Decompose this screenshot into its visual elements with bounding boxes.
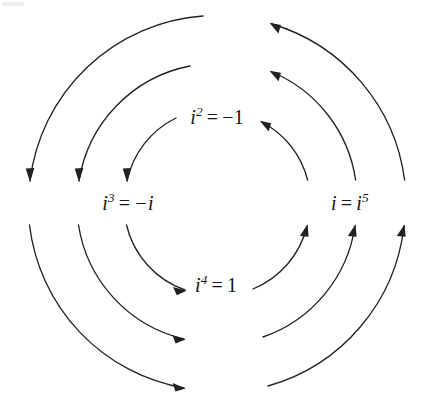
inner-left-bottom-arc	[127, 225, 186, 290]
middle-left-bottom-arrowhead	[172, 335, 185, 343]
label-i-first-result: i5	[356, 192, 369, 214]
middle-left-descending-arrowhead	[75, 168, 84, 182]
middle-right-ascending-arc	[263, 226, 355, 337]
middle-left-descending-arc	[79, 66, 190, 181]
inner-left-descending-arc	[127, 118, 176, 181]
outer-left-bottom-arc	[30, 225, 185, 388]
inner-right-ascending-arc	[253, 226, 307, 289]
label-i-fourth: i4=1	[190, 273, 242, 297]
label-i-first-result-exponent: 5	[362, 190, 369, 205]
label-i-first-base: i	[331, 192, 337, 214]
arc-group-left-descending	[26, 16, 203, 182]
label-i-squared: i2=−1	[185, 105, 249, 129]
label-i-squared-operator: =	[203, 106, 222, 128]
label-i-cubed-operator: =	[115, 192, 134, 214]
label-i-squared-result: −1	[222, 106, 244, 128]
label-i-first-operator: =	[337, 192, 356, 214]
arc-group-right-ascending	[253, 224, 406, 386]
outer-right-top-arrowhead	[269, 23, 281, 34]
outer-right-ascending-arrowhead	[397, 224, 406, 237]
outer-left-descending-arc	[30, 16, 203, 181]
inner-right-ascending-arrowhead	[300, 224, 309, 237]
label-i-fourth-operator: =	[207, 274, 226, 296]
outer-right-ascending-arc	[268, 226, 404, 386]
label-i-cubed-result: −i	[134, 192, 153, 214]
label-i-squared-exponent: 2	[196, 104, 203, 119]
arc-group-left-bottom	[30, 225, 187, 392]
label-i-cubed: i3=−i	[97, 191, 159, 215]
outer-right-top-arc	[272, 24, 405, 180]
label-i-fourth-result: 1	[227, 274, 237, 296]
outer-left-descending-arrowhead	[26, 168, 35, 182]
label-i-fourth-exponent: 4	[201, 272, 208, 287]
middle-right-top-arrowhead	[269, 71, 281, 81]
label-i-cubed-exponent: 3	[108, 190, 115, 205]
middle-right-ascending-arrowhead	[348, 224, 357, 237]
arc-group-right-top	[260, 23, 405, 180]
label-i-first: i=i5	[326, 191, 374, 215]
powers-of-i-diagram: i2=−1 i3=−i i=i5 i4=1 Powers of i cycle …	[0, 0, 422, 399]
inner-right-top-arrowhead	[260, 121, 271, 132]
inner-left-descending-arrowhead	[123, 168, 132, 182]
middle-right-top-arc	[272, 72, 356, 180]
